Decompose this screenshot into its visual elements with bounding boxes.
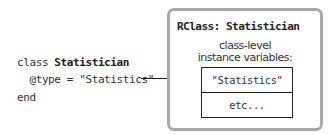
class-keyword: class [17,56,54,69]
instance-variables-table: "Statistics" etc... [201,67,293,118]
ivar-cell-etc: etc... [202,93,292,117]
rclass-title: RClass: Statistician [177,20,299,33]
rclass-box: RClass: Statistician class-level instanc… [167,8,323,131]
code-line-class: class Statistician [17,56,129,69]
code-line-end: end [17,91,36,104]
class-name: Statistician [54,56,129,69]
subtitle-line-2: instance variables: [170,52,320,64]
ivar-cell-type: "Statistics" [202,68,292,93]
code-line-assignment: @type = "Statistics" [17,73,154,86]
